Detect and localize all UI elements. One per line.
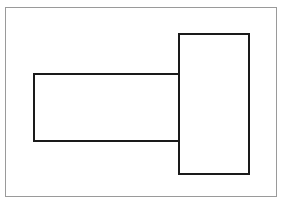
diagram-canvas: T-shaped composite rectangle outline Two… — [0, 0, 285, 208]
shape-diagram-svg: T-shaped composite rectangle outline Two… — [0, 0, 285, 208]
